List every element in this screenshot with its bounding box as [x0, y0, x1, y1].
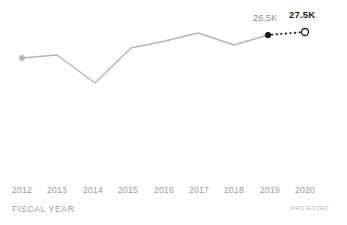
x-tick-2018: 2018 — [224, 184, 244, 196]
x-tick-2020: 2020 — [295, 184, 315, 196]
x-tick-2012: 2012 — [12, 184, 32, 196]
x-axis-tick-labels: 2012 2013 2014 2015 2016 2017 2018 2019 … — [0, 184, 347, 198]
x-tick-2019: 2019 — [260, 184, 280, 196]
start-point-marker — [19, 55, 25, 61]
x-tick-2017: 2017 — [189, 184, 209, 196]
projected-note-label: PROJECTED — [291, 204, 329, 213]
projected-series-line — [272, 32, 300, 34]
actual-series-line — [22, 33, 268, 83]
x-tick-2013: 2013 — [47, 184, 67, 196]
x-tick-2015: 2015 — [118, 184, 138, 196]
x-tick-2016: 2016 — [154, 184, 174, 196]
last-actual-value-label: 26.5K — [253, 14, 278, 23]
x-axis-title: FISCAL YEAR — [12, 203, 75, 215]
projected-value-label: 27.5K — [289, 10, 315, 20]
projected-point-marker — [302, 29, 309, 36]
x-tick-2014: 2014 — [83, 184, 103, 196]
line-chart: 26.5K 27.5K 2012 2013 2014 2015 2016 201… — [0, 0, 347, 225]
last-actual-point-marker — [265, 32, 271, 38]
